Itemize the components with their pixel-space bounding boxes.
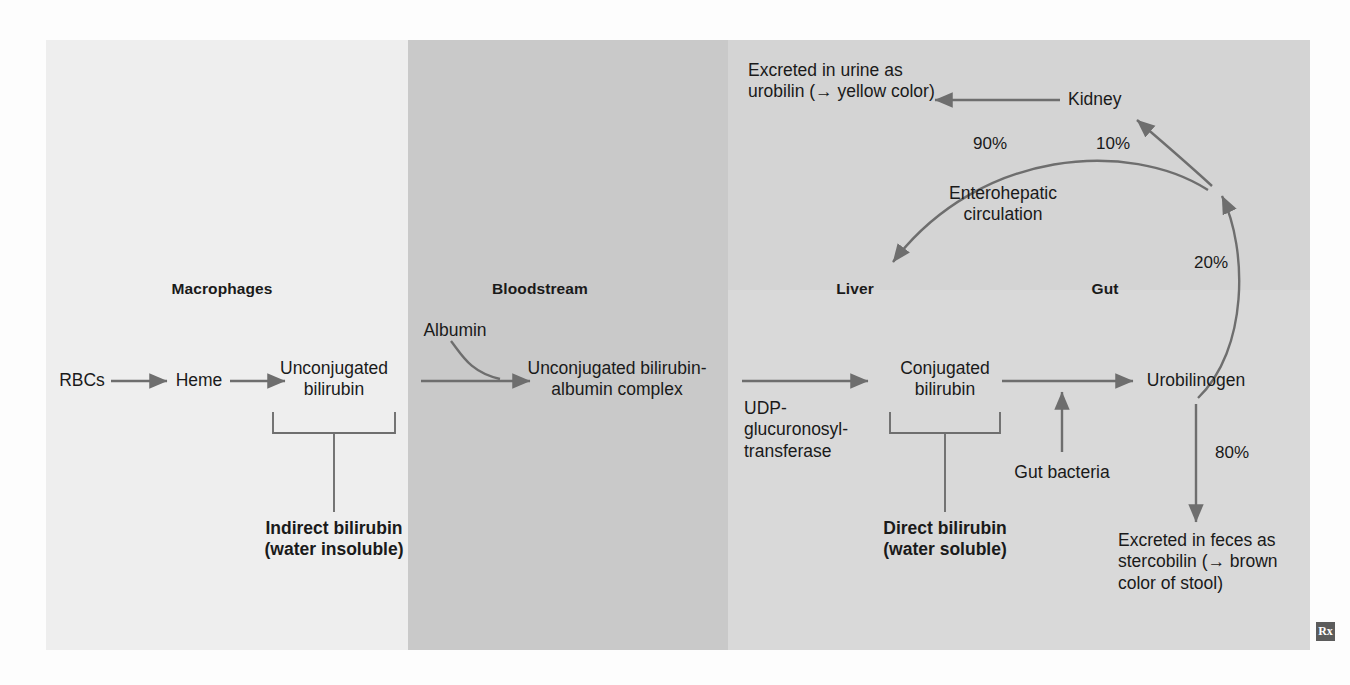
node-unconjugated-bilirubin: Unconjugated bilirubin [280, 358, 388, 401]
column-header-macrophages: Macrophages [171, 280, 272, 299]
node-feces-excretion: Excreted in feces as stercobilin (→ brow… [1118, 530, 1278, 594]
label-percent-10: 10% [1096, 134, 1130, 155]
node-direct-bilirubin: Direct bilirubin (water soluble) [883, 518, 1007, 561]
node-gut-bacteria: Gut bacteria [1014, 462, 1109, 483]
label-percent-20: 20% [1194, 253, 1228, 274]
node-urine-excretion: Excreted in urine as urobilin (→ yellow … [748, 60, 935, 103]
column-header-liver: Liver [836, 280, 874, 299]
node-udp-glucuronosyltransferase: UDP- glucuronosyl- transferase [744, 398, 848, 462]
label-percent-90: 90% [973, 134, 1007, 155]
node-urobilinogen: Urobilinogen [1147, 370, 1245, 391]
node-albumin: Albumin [423, 320, 486, 341]
node-heme: Heme [176, 370, 223, 391]
node-unconjugated-albumin-complex: Unconjugated bilirubin- albumin complex [528, 358, 707, 401]
column-header-bloodstream: Bloodstream [492, 280, 588, 299]
node-kidney: Kidney [1068, 89, 1122, 110]
node-indirect-bilirubin: Indirect bilirubin (water insoluble) [264, 518, 403, 561]
label-enterohepatic-circulation: Enterohepatic circulation [949, 183, 1057, 226]
column-header-gut: Gut [1092, 280, 1119, 299]
node-rbcs: RBCs [59, 370, 105, 391]
rx-logo: Rx [1316, 622, 1335, 641]
bilirubin-metabolism-diagram: Macrophages Bloodstream Liver Gut RBCs H… [0, 0, 1350, 685]
column-band-bloodstream [408, 40, 728, 650]
label-percent-80: 80% [1215, 443, 1249, 464]
node-conjugated-bilirubin: Conjugated bilirubin [900, 358, 990, 401]
